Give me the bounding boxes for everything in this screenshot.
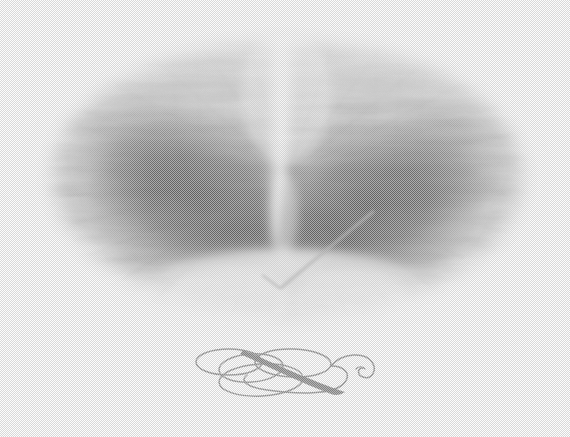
down-feather-puff — [0, 0, 570, 350]
calligraphic-flourish — [185, 342, 390, 404]
scanned-plate — [0, 0, 570, 437]
puff-artwork — [0, 0, 570, 360]
flourish-artwork — [185, 342, 390, 404]
